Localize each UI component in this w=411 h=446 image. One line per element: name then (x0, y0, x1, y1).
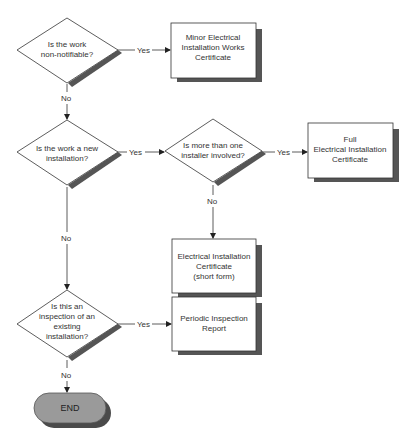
decision-text-line: inspection of an (39, 312, 95, 321)
decision-text-line: non-notifiable? (41, 50, 94, 59)
edge-label-d4-end: No (61, 371, 72, 380)
outcome-text-line: Report (202, 324, 227, 333)
decision-text-line: existing (53, 322, 80, 331)
outcome-eic-short-form: Electrical Installation Certificate (sho… (172, 239, 262, 297)
edge-label-d3-o2: Yes (277, 148, 290, 157)
edge-label-d1-o1: Yes (137, 46, 150, 55)
decision-new-installation: Is the work a new installation? (17, 120, 122, 189)
decision-text-line: installation? (46, 332, 89, 341)
decision-text-line: Is the work a new (36, 144, 98, 153)
edge-label-d4-o4: Yes (137, 320, 150, 329)
edge-label-d2-d4: No (61, 234, 72, 243)
outcome-periodic-inspection-report: Periodic Inspection Report (172, 297, 262, 355)
terminal-label: END (60, 403, 80, 413)
outcome-text-line: Installation Works (182, 43, 245, 52)
outcome-text-line: (short form) (193, 272, 235, 281)
outcome-text-line: Electrical Installation (178, 252, 251, 261)
decision-more-than-one-installer: Is more than one installer involved? (165, 119, 266, 186)
outcome-text-line: Certificate (332, 155, 369, 164)
outcome-minor-works-certificate: Minor Electrical Installation Works Cert… (171, 23, 262, 82)
decision-text-line: Is this an (51, 302, 83, 311)
outcome-text-line: Periodic Inspection (180, 314, 248, 323)
outcome-full-eic: Full Electrical Installation Certificate (308, 123, 399, 182)
edge-label-d2-d3: Yes (129, 148, 142, 157)
outcome-text-line: Certificate (195, 53, 232, 62)
terminal-end: END (34, 393, 111, 428)
decision-text-line: Is more than one (183, 141, 244, 150)
outcome-text-line: Full (344, 135, 357, 144)
edge-label-d3-o3: No (207, 197, 218, 206)
decision-non-notifiable: Is the work non-notifiable? (17, 18, 122, 87)
outcome-text-line: Minor Electrical (186, 33, 241, 42)
outcome-text-line: Certificate (196, 262, 233, 271)
edge-label-d1-d2: No (61, 94, 72, 103)
decision-inspection-existing: Is this an inspection of an existing ins… (17, 290, 122, 361)
decision-text-line: installation? (46, 154, 89, 163)
decision-text-line: installer involved? (181, 151, 245, 160)
outcome-text-line: Electrical Installation (314, 145, 387, 154)
decision-text-line: Is the work (48, 40, 88, 49)
flowchart: Yes No Yes No Yes No Yes No Is the work … (0, 0, 411, 446)
